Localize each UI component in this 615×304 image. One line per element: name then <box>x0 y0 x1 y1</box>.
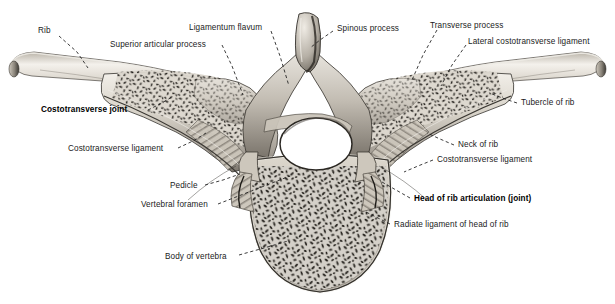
label-superior-articular-process: Superior articular process <box>110 41 206 49</box>
label-body-of-vertebra: Body of vertebra <box>165 253 227 261</box>
anatomy-figure: RibSuperior articular processLigamentum … <box>0 0 615 304</box>
label-ligamentum-flavum: Ligamentum flavum <box>189 24 262 32</box>
label-radiate-ligament-of-head-of-rib: Radiate ligament of head of rib <box>394 221 509 229</box>
label-lateral-costotransverse-ligament: Lateral costotransverse ligament <box>468 38 590 46</box>
label-costotransverse-ligament-left: Costotransverse ligament <box>68 145 163 153</box>
label-head-of-rib-articulation: Head of rib articulation (joint) <box>414 195 531 203</box>
label-costotransverse-ligament-right: Costotransverse ligament <box>437 156 532 164</box>
label-costotransverse-joint: Costotransverse joint <box>41 106 127 114</box>
label-tubercle-of-rib: Tubercle of rib <box>521 99 575 107</box>
label-spinous-process: Spinous process <box>337 25 399 33</box>
label-rib: Rib <box>38 27 51 35</box>
label-transverse-process: Transverse process <box>430 22 503 30</box>
label-pedicle: Pedicle <box>170 182 198 190</box>
label-neck-of-rib: Neck of rib <box>458 141 498 149</box>
label-vertebral-foramen: Vertebral foramen <box>141 201 208 209</box>
vertebral-foramen <box>280 118 352 170</box>
